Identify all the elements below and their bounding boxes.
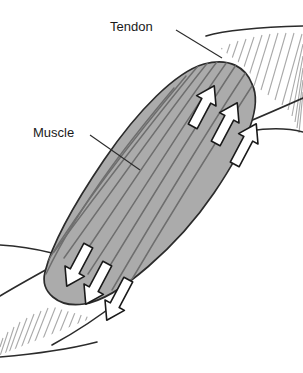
muscle-tendon-figure: Tendon Muscle bbox=[0, 0, 303, 373]
muscle-label: Muscle bbox=[33, 125, 74, 140]
tendon-lower-upper-edge-line bbox=[0, 245, 52, 253]
label-tendon-group: Tendon bbox=[110, 19, 222, 58]
tendon-label: Tendon bbox=[110, 19, 153, 34]
diagram-canvas: Tendon Muscle bbox=[0, 0, 303, 373]
tendon-upper-edge-line bbox=[206, 26, 303, 36]
tendon-lower-edge-line bbox=[0, 342, 97, 357]
